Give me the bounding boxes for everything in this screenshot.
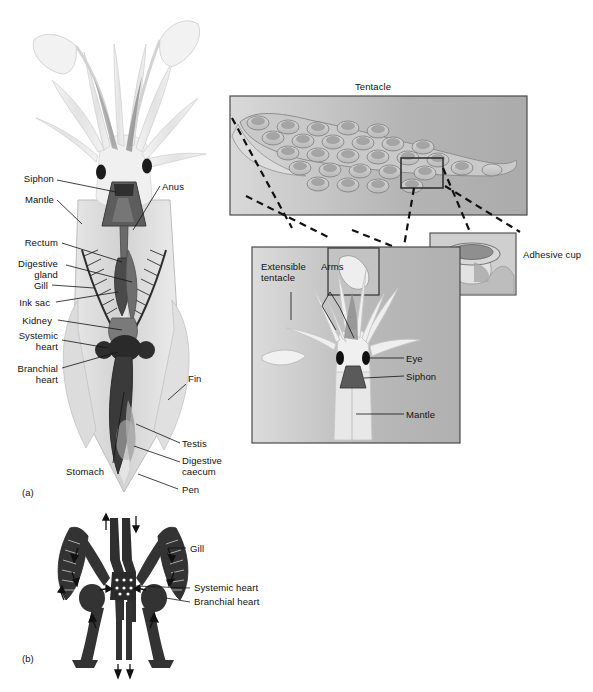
label-fin: Fin <box>188 373 202 384</box>
label-tentacle-title: Tentacle <box>355 81 391 92</box>
label-inset-mantle: Mantle <box>406 409 435 420</box>
label-branchial-heart: Branchial heart <box>2 363 58 385</box>
inset-eye-left <box>336 351 344 365</box>
label-extensible-tentacle: Extensible tentacle <box>261 261 321 283</box>
label-digestive-caecum: Digestive caecum <box>182 455 222 477</box>
label-rectum: Rectum <box>8 237 58 248</box>
label-inset-eye: Eye <box>406 353 423 364</box>
label-inset-siphon: Siphon <box>406 371 436 382</box>
figure-canvas <box>0 0 593 692</box>
squid-anatomy-figure: Siphon Mantle Rectum Digestive gland Gil… <box>0 0 593 692</box>
label-b-systemic-heart: Systemic heart <box>194 582 258 593</box>
eye-left <box>96 165 106 180</box>
eye-right <box>142 159 152 174</box>
siphon-opening <box>114 184 134 196</box>
label-arms: Arms <box>321 261 344 272</box>
panel-a-marker: (a) <box>22 487 34 498</box>
label-mantle: Mantle <box>8 194 54 205</box>
label-pen: Pen <box>182 484 199 495</box>
label-gill: Gill <box>8 280 48 291</box>
panel-b-marker: (b) <box>22 653 34 664</box>
vessel-feet <box>72 660 174 668</box>
label-siphon: Siphon <box>8 173 54 184</box>
label-systemic-heart: Systemic heart <box>2 330 58 352</box>
label-ink-sac: Ink sac <box>2 297 50 308</box>
label-b-branchial-heart: Branchial heart <box>194 596 259 607</box>
label-anus: Anus <box>162 181 184 192</box>
label-stomach: Stomach <box>66 466 104 477</box>
afferent-left <box>80 538 110 586</box>
label-digestive-gland: Digestive gland <box>2 258 58 280</box>
label-adhesive-cup: Adhesive cup <box>523 249 581 260</box>
panel-b-circulation <box>58 514 190 678</box>
label-kidney: Kidney <box>2 315 52 326</box>
afferent-right <box>136 538 166 586</box>
label-b-gill: Gill <box>190 543 204 554</box>
b-systemic-heart <box>110 572 136 600</box>
label-testis: Testis <box>182 438 207 449</box>
